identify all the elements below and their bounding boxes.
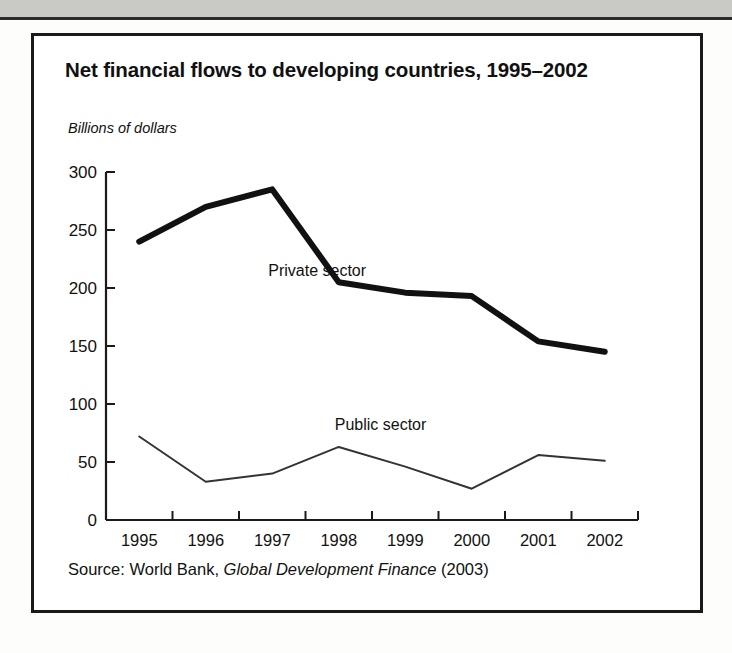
annotation-public-sector: Public sector xyxy=(335,416,427,433)
y-tick-label-150: 150 xyxy=(69,337,97,356)
y-tick-label-0: 0 xyxy=(88,511,97,530)
y-axis-ticks: 050100150200250300 xyxy=(69,163,115,530)
x-axis-ticks: 19951996199719981999200020012002 xyxy=(106,511,638,549)
source-prefix: Source: World Bank, xyxy=(68,560,224,578)
figure-box: Net financial flows to developing countr… xyxy=(31,33,703,613)
annotation-private-sector: Private sector xyxy=(268,262,366,279)
x-tick-label-1997: 1997 xyxy=(254,531,291,549)
series-line-public-sector xyxy=(139,436,605,488)
scanned-page-background: Net financial flows to developing countr… xyxy=(0,0,732,653)
source-publication-title: Global Development Finance xyxy=(224,560,437,578)
x-tick-label-1999: 1999 xyxy=(387,531,424,549)
y-tick-label-300: 300 xyxy=(69,163,97,182)
source-suffix: (2003) xyxy=(436,560,488,578)
x-tick-label-1995: 1995 xyxy=(121,531,158,549)
series-line-private-sector xyxy=(139,189,605,351)
x-tick-label-1996: 1996 xyxy=(187,531,224,549)
source-note: Source: World Bank, Global Development F… xyxy=(68,560,489,579)
y-tick-label-100: 100 xyxy=(69,395,97,414)
x-tick-label-2002: 2002 xyxy=(586,531,623,549)
x-tick-label-2001: 2001 xyxy=(520,531,557,549)
page-top-gray-band xyxy=(0,0,732,17)
plot-area: 050100150200250300 199519961997199819992… xyxy=(34,36,700,610)
x-tick-label-1998: 1998 xyxy=(320,531,357,549)
page-top-rule xyxy=(0,17,732,20)
x-tick-label-2000: 2000 xyxy=(453,531,490,549)
y-tick-label-200: 200 xyxy=(69,279,97,298)
series-annotations: Private sectorPublic sector xyxy=(268,262,427,432)
y-tick-label-250: 250 xyxy=(69,221,97,240)
data-series-layer xyxy=(139,189,605,488)
line-chart-svg: 050100150200250300 199519961997199819992… xyxy=(34,36,700,610)
y-tick-label-50: 50 xyxy=(78,453,97,472)
